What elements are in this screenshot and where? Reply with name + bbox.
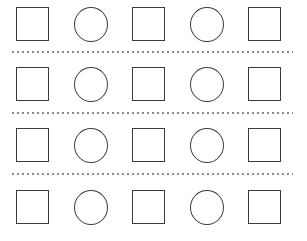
square-icon	[132, 7, 165, 41]
dotted-separator-line	[12, 112, 293, 114]
shape-cell-square[interactable]	[16, 7, 50, 41]
square-icon	[132, 190, 165, 224]
square-icon	[248, 7, 281, 41]
shape-cell-circle[interactable]	[74, 67, 108, 101]
shape-cell-circle[interactable]	[74, 7, 108, 41]
square-icon	[248, 67, 281, 101]
shape-cell-square[interactable]	[132, 7, 166, 41]
dotted-separator-line	[12, 173, 293, 175]
circle-icon	[190, 67, 224, 102]
square-icon	[248, 128, 281, 162]
shape-cell-square[interactable]	[248, 7, 282, 41]
shape-cell-square[interactable]	[248, 67, 282, 101]
square-icon	[132, 128, 165, 162]
shape-cell-square[interactable]	[132, 128, 166, 162]
circle-icon	[74, 7, 108, 42]
circle-icon	[74, 67, 108, 102]
shape-cell-square[interactable]	[16, 67, 50, 101]
shape-cell-square[interactable]	[248, 190, 282, 224]
square-icon	[16, 67, 49, 101]
shape-row	[0, 123, 307, 168]
shape-row	[0, 185, 307, 230]
shape-cell-square[interactable]	[248, 128, 282, 162]
shape-cell-square[interactable]	[132, 190, 166, 224]
square-icon	[16, 7, 49, 41]
square-icon	[16, 128, 49, 162]
shape-cell-circle[interactable]	[190, 7, 224, 41]
shape-cell-square[interactable]	[16, 128, 50, 162]
dotted-separator-line	[12, 51, 293, 53]
circle-icon	[190, 7, 224, 42]
circle-icon	[74, 128, 108, 163]
shape-cell-circle[interactable]	[190, 67, 224, 101]
square-icon	[248, 190, 281, 224]
circle-icon	[190, 128, 224, 163]
shape-cell-circle[interactable]	[190, 190, 224, 224]
shape-row	[0, 2, 307, 47]
square-icon	[132, 67, 165, 101]
shape-cell-circle[interactable]	[74, 190, 108, 224]
square-icon	[16, 190, 49, 224]
shape-row	[0, 62, 307, 107]
shape-pattern-worksheet	[0, 0, 307, 241]
circle-icon	[74, 190, 108, 225]
shape-cell-square[interactable]	[132, 67, 166, 101]
shape-cell-circle[interactable]	[74, 128, 108, 162]
shape-cell-circle[interactable]	[190, 128, 224, 162]
shape-cell-square[interactable]	[16, 190, 50, 224]
circle-icon	[190, 190, 224, 225]
